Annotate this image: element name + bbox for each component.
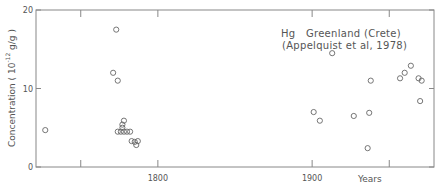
data-point	[111, 70, 116, 75]
data-point	[397, 76, 402, 81]
x-tick-label: 1800	[148, 174, 168, 183]
y-axis-label: Concentration ( 10-12 g/g )	[4, 29, 17, 147]
annotation-line-1: Hg Greenland (Crete)	[281, 28, 401, 39]
y-tick-labels: 01020	[23, 6, 33, 172]
scatter-chart: 01020 18001900 Years Concentration ( 10-…	[0, 0, 441, 185]
y-axis-label-exponent: -12	[4, 53, 11, 63]
data-point	[408, 63, 413, 68]
y-axis-label-unit: g/g )	[7, 29, 17, 53]
annotation-line-2: (Appelquist et al, 1978)	[282, 40, 407, 51]
data-point	[368, 78, 373, 83]
x-tick-labels: 18001900	[148, 174, 323, 183]
y-tick-label: 10	[23, 85, 33, 94]
data-point	[330, 51, 335, 56]
data-point	[351, 113, 356, 118]
data-point	[367, 110, 372, 115]
data-point	[402, 70, 407, 75]
data-point	[114, 27, 119, 32]
x-axis-label: Years	[357, 174, 382, 184]
data-point	[317, 118, 322, 123]
data-point	[311, 109, 316, 114]
data-point	[418, 98, 423, 103]
x-tick-label: 1900	[302, 174, 322, 183]
y-tick-label: 0	[28, 163, 33, 172]
y-tick-label: 20	[23, 6, 33, 15]
data-point	[365, 146, 370, 151]
y-axis-label-main: Concentration ( 10	[7, 62, 17, 147]
svg-text:Concentration ( 10-12 g/g ): Concentration ( 10-12 g/g )	[4, 29, 17, 147]
data-point	[128, 129, 133, 134]
data-point	[43, 128, 48, 133]
data-point	[115, 78, 120, 83]
